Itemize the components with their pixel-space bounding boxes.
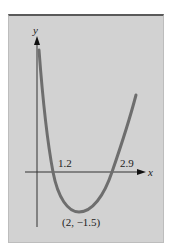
- y-axis-arrow-icon: [34, 36, 40, 45]
- x-intercept-label-2: 2.9: [120, 157, 134, 169]
- x-intercept-label-1: 1.2: [58, 157, 72, 169]
- chart-plot: y x 1.2 2.9 (2, −1.5): [0, 0, 174, 247]
- x-axis-label: x: [147, 166, 153, 178]
- minimum-point-label: (2, −1.5): [62, 216, 101, 229]
- function-curve: [39, 50, 136, 212]
- x-axis-arrow-icon: [137, 169, 146, 175]
- y-axis-label: y: [32, 24, 38, 36]
